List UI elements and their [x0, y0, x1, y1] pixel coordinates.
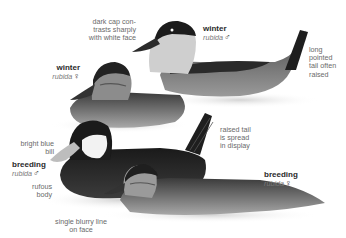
annotation-line: raised: [309, 71, 336, 79]
female-symbol-icon: ♀: [73, 71, 80, 81]
annotation-raised-tail: raised tail is spread in display: [220, 126, 251, 151]
annotation-line: with white face: [72, 34, 136, 42]
male-symbol-icon: ♂: [224, 32, 231, 42]
tag-scientific-name: rubida: [52, 72, 72, 81]
annotation-line: body: [16, 191, 52, 199]
tag-breeding-male: breeding rubida♂: [12, 160, 46, 178]
tag-scientific-name: rubida: [12, 169, 32, 178]
annotation-line: on face: [48, 226, 114, 234]
tag-scientific-name: rubida: [264, 179, 284, 188]
tag-title: breeding: [264, 170, 298, 179]
tag-breeding-female: breeding rubida♀: [264, 170, 298, 188]
tag-scientific-name: rubida: [203, 33, 223, 42]
annotation-line: bill: [10, 148, 54, 156]
annotation-rufous-body: rufous body: [16, 183, 52, 199]
female-symbol-icon: ♀: [285, 178, 292, 188]
tag-title: breeding: [12, 160, 46, 169]
annotation-blurry-line: single blurry line on face: [48, 218, 114, 234]
tag-winter-female: winter rubida♀: [40, 63, 80, 81]
tag-winter-male: winter rubida♂: [203, 24, 231, 42]
annotation-line: in display: [220, 142, 251, 150]
annotation-long-tail: long pointed tail often raised: [309, 46, 336, 79]
male-symbol-icon: ♂: [33, 168, 40, 178]
ruddy-duck-illustration: [0, 0, 346, 238]
annotation-blue-bill: bright blue bill: [10, 140, 54, 156]
annotation-dark-cap: dark cap con- trasts sharply with white …: [72, 18, 136, 43]
